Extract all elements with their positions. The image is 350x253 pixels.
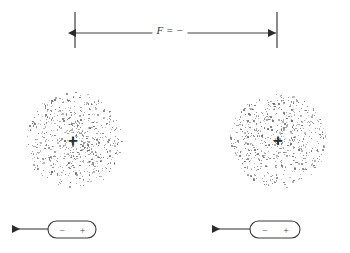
dipole-symbols-group (12, 221, 300, 238)
right-nucleus-plus-icon: + (273, 132, 283, 149)
left-nucleus-plus-icon: + (68, 132, 78, 149)
right-dipole-plus-icon: + (283, 224, 289, 235)
force-equation-label: F = − (152, 24, 187, 36)
physics-figure: + + F = − − + − + (0, 0, 350, 253)
left-dipole-plus-icon: + (80, 224, 86, 235)
left-dipole-minus-icon: − (60, 224, 66, 235)
right-dipole-minus-icon: − (262, 224, 268, 235)
